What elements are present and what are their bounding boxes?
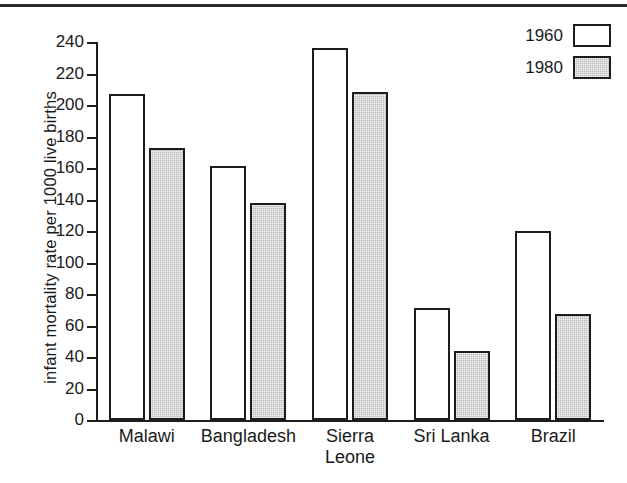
legend-label-1960: 1960 xyxy=(525,26,563,46)
bar-sierra-leone-1980 xyxy=(352,92,388,420)
y-tick-label: 160 xyxy=(56,158,84,178)
legend-item-1960[interactable]: 1960 xyxy=(525,24,611,47)
y-tick-mark xyxy=(87,231,96,233)
y-tick-mark xyxy=(87,137,96,139)
x-label-malawi: Malawi xyxy=(96,426,198,447)
y-axis-line xyxy=(96,42,98,421)
bar-malawi-1960 xyxy=(109,94,145,420)
y-tick-mark xyxy=(87,168,96,170)
bar-brazil-1960 xyxy=(515,231,551,420)
y-tick-label: 40 xyxy=(65,347,84,367)
bar-bangladesh-1960 xyxy=(210,166,246,420)
legend-swatch-1980 xyxy=(573,56,611,79)
x-axis-line xyxy=(96,420,604,422)
y-tick-mark xyxy=(87,357,96,359)
y-tick-mark xyxy=(87,74,96,76)
bar-sri-lanka-1960 xyxy=(414,308,450,420)
bar-sierra-leone-1960 xyxy=(312,48,348,420)
y-tick-mark xyxy=(87,294,96,296)
y-tick-mark xyxy=(87,105,96,107)
bar-brazil-1980 xyxy=(555,314,591,420)
y-tick-mark xyxy=(87,420,96,422)
page-top-rule xyxy=(0,4,627,7)
y-tick-label: 220 xyxy=(56,64,84,84)
y-tick-label: 180 xyxy=(56,127,84,147)
y-tick-mark xyxy=(87,200,96,202)
x-label-brazil: Brazil xyxy=(502,426,604,447)
y-tick-label: 100 xyxy=(56,253,84,273)
infant-mortality-bar-chart: infant mortality rate per 1000 live birt… xyxy=(0,0,627,483)
y-tick-mark xyxy=(87,263,96,265)
y-tick-label: 60 xyxy=(65,316,84,336)
y-tick-label: 0 xyxy=(75,410,84,430)
bar-bangladesh-1980 xyxy=(250,203,286,420)
legend-swatch-1960 xyxy=(573,24,611,47)
y-tick-label: 80 xyxy=(65,284,84,304)
y-tick-mark xyxy=(87,389,96,391)
legend: 1960 1980 xyxy=(525,24,611,79)
y-tick-label: 240 xyxy=(56,32,84,52)
bar-sri-lanka-1980 xyxy=(454,351,490,420)
x-label-sri-lanka: Sri Lanka xyxy=(401,426,503,447)
plot-area: 020406080100120140160180200220240 Malawi… xyxy=(96,42,604,420)
x-label-sierra-leone: Sierra Leone xyxy=(299,426,401,468)
y-tick-label: 20 xyxy=(65,379,84,399)
legend-item-1980[interactable]: 1980 xyxy=(525,56,611,79)
y-tick-label: 140 xyxy=(56,190,84,210)
legend-label-1980: 1980 xyxy=(525,58,563,78)
bar-malawi-1980 xyxy=(149,148,185,420)
x-label-bangladesh: Bangladesh xyxy=(198,426,300,447)
y-tick-label: 200 xyxy=(56,95,84,115)
y-tick-label: 120 xyxy=(56,221,84,241)
y-tick-mark xyxy=(87,326,96,328)
y-tick-mark xyxy=(87,42,96,44)
